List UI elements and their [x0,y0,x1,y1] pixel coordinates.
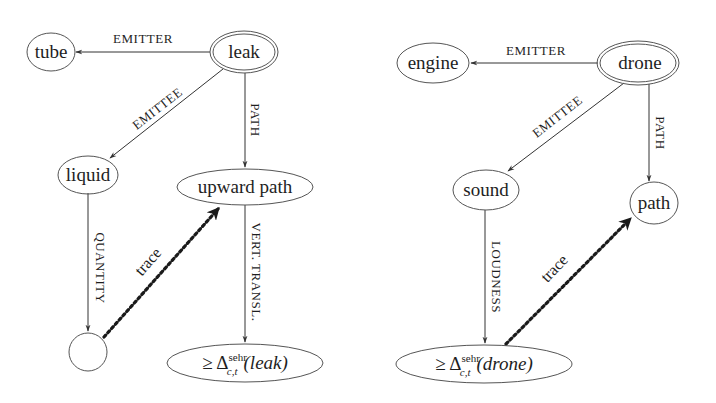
edge-label-path: PATH [248,103,263,136]
edge-label-loudness: LOUDNESS [489,241,504,313]
node-upward-path: upward path [177,169,313,205]
node-label-sound: sound [463,179,509,200]
node-drone: drone [597,41,679,85]
node-label-drone: drone [618,52,661,73]
node-path: path [630,182,678,224]
node-sound: sound [453,170,519,210]
diagram-canvas: EMITTER EMITTEE PATH QUANTITY VERT. TRAN… [0,0,716,403]
node-leak: leak [210,31,278,73]
node-label-liquid: liquid [66,164,111,185]
node-label-path: path [638,192,671,213]
node-liquid: liquid [58,156,118,194]
trace-edge-leak [104,209,218,337]
node-delta-drone: ≥ Δsehrc,t(drone) [396,345,572,383]
node-label-delta-leak: ≥ Δsehrc,t(leak) [202,351,288,377]
node-engine: engine [397,43,469,83]
node-delta-leak: ≥ Δsehrc,t(leak) [167,344,323,382]
edge-label-quantity: QUANTITY [93,232,108,303]
node-label-upward-path: upward path [198,176,293,197]
edge-label-path-drone: PATH [653,116,668,149]
edge-label-vert-transl: VERT. TRANSL. [249,223,264,322]
edge-label-emitter-drone: EMITTER [506,43,566,58]
trace-label-drone: trace [537,251,571,285]
node-label-engine: engine [408,52,459,73]
edge-emittee-drone [508,83,624,171]
node-label-delta-drone: ≥ Δsehrc,t(drone) [435,352,533,378]
leak-graph: EMITTER EMITTEE PATH QUANTITY VERT. TRAN… [27,31,323,382]
drone-graph: EMITTER EMITTEE PATH LOUDNESS trace engi… [396,41,679,383]
node-label-tube: tube [35,41,68,62]
edge-label-emittee: EMITTEE [129,84,185,132]
edge-emittee-leak [110,69,223,158]
edge-label-emitter: EMITTER [113,31,173,46]
node-quantity-empty [69,333,107,371]
node-label-leak: leak [228,41,260,62]
trace-edge-drone [506,219,630,344]
node-tube: tube [27,33,75,71]
